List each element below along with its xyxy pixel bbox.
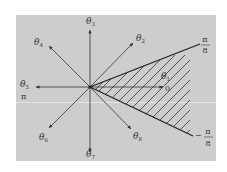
theta1-angle-label: 0 xyxy=(165,84,170,93)
origin-point xyxy=(88,85,91,88)
panel-light-band xyxy=(16,102,216,103)
svg-text:−: − xyxy=(195,131,202,140)
svg-text:8: 8 xyxy=(202,46,207,55)
svg-text:π: π xyxy=(205,127,210,136)
direction-diagram: θ1 0 θ2 θ3 θ4 θ5 π θ6 θ7 θ8 π 8 − π 8 xyxy=(0,0,227,172)
svg-text:8: 8 xyxy=(205,139,210,148)
svg-text:π: π xyxy=(202,35,207,44)
theta5-angle-label: π xyxy=(21,92,26,101)
